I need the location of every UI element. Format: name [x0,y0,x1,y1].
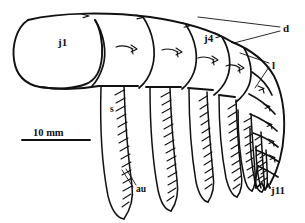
label-j4: j4 [203,32,214,44]
article-j2-seta-mark [116,45,137,54]
article-j2-distal-margin [139,17,154,88]
article-j5 [219,48,251,102]
label-j11: j11 [270,184,285,196]
antenna-drawing-canvas: 10 mm j1 j4 j11 d l s au [0,0,305,223]
article-j3-seta-mark [162,48,182,57]
article-j1 [14,20,103,89]
article-j4-seta-mark [198,56,218,65]
leader-to-d-lower [234,31,280,43]
seta-row [189,89,214,202]
label-s: s [110,104,114,114]
leader-to-d-upper [198,17,280,27]
article-j10-suture [256,150,279,162]
article-j3-distal-margin [182,25,196,89]
article-j7-suture [249,94,275,114]
label-l: l [272,59,275,71]
scale-bar-label: 10 mm [33,127,64,138]
label-j1: j1 [57,36,67,48]
article-j5-ventral-margin [219,95,235,97]
seta-outer-margin [170,88,178,211]
seta-shaft [238,110,252,191]
seta-barbs [115,90,132,207]
seta-outer-margin [236,100,242,197]
label-au: au [136,184,147,194]
seta-row [150,88,178,211]
article-j6-suture [252,72,272,95]
article-j6-seta-mark [258,86,264,93]
seta-row [238,110,255,191]
article-j8-suture [250,114,277,131]
antenna-figure: 10 mm j1 j4 j11 d l s au [0,0,305,223]
seta-row [101,86,133,219]
article-j4-ventral-margin [188,88,213,90]
seta-barbs [161,92,177,201]
scale-bar: 10 mm [22,127,90,140]
article-j1-outline [14,20,103,88]
label-d: d [283,22,289,34]
